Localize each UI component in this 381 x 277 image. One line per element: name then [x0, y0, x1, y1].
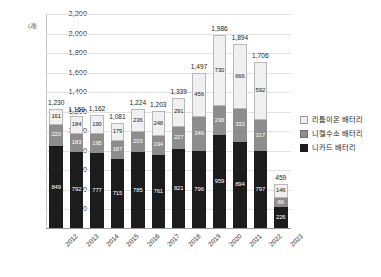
chart-legend: 리튬이온 배터리 니켈수소 배터리 니카드 배터리 [300, 113, 378, 155]
bar-segment-lithium[interactable]: 161 [49, 109, 63, 125]
bar-segment-value-label: 333 [235, 122, 245, 128]
bar-segment-lithium[interactable]: 190 [90, 115, 104, 134]
bar-segment-value-label: 190 [92, 122, 102, 128]
bar-segment-nimh[interactable]: 194 [152, 136, 166, 155]
bar-stack: 291227821 [172, 98, 186, 229]
bar-stack: 14688226 [274, 184, 288, 229]
bar-segment-lithium[interactable]: 592 [254, 62, 268, 120]
bar-stack: 161220849 [49, 109, 63, 229]
bar-total-label: 459 [275, 175, 286, 182]
bar-total-label: 1,230 [48, 100, 65, 107]
plot-area: 1612208491,2301841837921,1591901957771,1… [46, 14, 291, 229]
y-axis-unit-label: (개) [28, 24, 37, 30]
bar-segment-value-label: 592 [256, 88, 266, 94]
bar-segment-nicd[interactable]: 777 [90, 153, 104, 229]
bar-segment-lithium[interactable]: 184 [70, 116, 84, 134]
bar-stack: 184183792 [70, 116, 84, 229]
bar-segment-lithium[interactable]: 248 [152, 111, 166, 135]
x-axis-tick: 2012 [65, 233, 80, 248]
bar-segment-value-label: 88 [278, 200, 284, 206]
bar-stack: 190195777 [90, 115, 104, 229]
bar-segment-value-label: 226 [276, 215, 286, 221]
bar-segment-nicd[interactable]: 821 [172, 149, 186, 229]
bar-segment-value-label: 715 [113, 191, 123, 197]
bar-segment-value-label: 179 [113, 129, 123, 135]
bar-segment-value-label: 785 [133, 188, 143, 194]
bar-segment-nimh[interactable]: 88 [274, 198, 288, 207]
bar-segment-value-label: 849 [51, 185, 61, 191]
bar-segment-value-label: 761 [154, 189, 164, 195]
bar-segment-lithium[interactable]: 730 [213, 35, 227, 106]
bar-total-label: 1,986 [211, 26, 228, 33]
stacked-bar-chart: (개) 2004006008001,0001,2001,4001,6001,80… [0, 0, 381, 277]
bar-segment-nimh[interactable]: 195 [90, 134, 104, 153]
bar-segment-lithium[interactable]: 291 [172, 98, 186, 126]
bar-segment-value-label: 959 [215, 179, 225, 185]
x-axis-tick: 2022 [269, 233, 284, 248]
legend-label-lithium: 리튬이온 배터리 [312, 116, 363, 123]
bar-segment-value-label: 161 [51, 114, 61, 120]
bar-segment-value-label: 203 [133, 139, 143, 145]
x-axis-tick: 2013 [85, 233, 100, 248]
bar-segment-nicd[interactable]: 849 [49, 146, 63, 229]
bar-segment-value-label: 792 [72, 187, 82, 193]
bar-segment-nicd[interactable]: 715 [111, 159, 125, 229]
bar-segment-nimh[interactable]: 296 [213, 106, 227, 135]
bar-total-label: 1,159 [68, 107, 85, 114]
bar-total-label: 1,497 [191, 64, 208, 71]
bar-segment-value-label: 194 [154, 142, 164, 148]
bar-segment-nimh[interactable]: 333 [233, 109, 247, 142]
bar-total-label: 1,203 [150, 102, 167, 109]
bar-segment-nimh[interactable]: 346 [192, 117, 206, 151]
bar-segment-nicd[interactable]: 796 [192, 151, 206, 229]
gridline [46, 34, 291, 35]
bar-segment-nimh[interactable]: 203 [131, 132, 145, 152]
bar-segment-lithium[interactable]: 236 [131, 109, 145, 132]
bar-total-label: 1,081 [109, 114, 126, 121]
legend-swatch-nicd-icon [300, 144, 308, 152]
bar-segment-lithium[interactable]: 146 [274, 184, 288, 198]
x-axis-tick: 2021 [248, 233, 263, 248]
bar-total-label: 1,224 [130, 100, 147, 107]
bar-segment-value-label: 220 [51, 132, 61, 138]
legend-item-lithium: 리튬이온 배터리 [300, 113, 378, 127]
bar-stack: 179187715 [111, 123, 125, 229]
bar-segment-value-label: 187 [113, 147, 123, 153]
bar-segment-value-label: 146 [276, 188, 286, 194]
bar-segment-value-label: 666 [235, 74, 245, 80]
bar-total-label: 1,706 [252, 53, 269, 60]
bar-segment-nicd[interactable]: 761 [152, 155, 166, 229]
legend-label-nimh: 니켈수소 배터리 [312, 130, 363, 137]
bar-stack: 248194761 [152, 111, 166, 229]
bar-total-label: 1,894 [232, 35, 249, 42]
bar-segment-nimh[interactable]: 183 [70, 134, 84, 152]
bar-segment-nicd[interactable]: 785 [131, 152, 145, 229]
bar-segment-nimh[interactable]: 220 [49, 125, 63, 147]
bar-segment-nicd[interactable]: 959 [213, 135, 227, 229]
bar-segment-nicd[interactable]: 797 [254, 151, 268, 229]
x-axis-tick: 2020 [228, 233, 243, 248]
gridline [46, 14, 291, 15]
bar-segment-value-label: 296 [215, 118, 225, 124]
bar-segment-nicd[interactable]: 894 [233, 142, 247, 229]
bar-segment-value-label: 183 [72, 140, 82, 146]
bar-segment-nimh[interactable]: 187 [111, 141, 125, 159]
bar-segment-lithium[interactable]: 456 [192, 73, 206, 118]
bar-segment-nimh[interactable]: 227 [172, 127, 186, 149]
bar-stack: 666333894 [233, 44, 247, 229]
x-axis-tick: 2023 [289, 233, 304, 248]
bar-segment-lithium[interactable]: 666 [233, 44, 247, 109]
bar-stack: 730296959 [213, 35, 227, 229]
bar-stack: 456346796 [192, 73, 206, 229]
x-axis-tick: 2017 [167, 233, 182, 248]
x-axis-tick: 2015 [126, 233, 141, 248]
bar-segment-value-label: 248 [154, 121, 164, 127]
bar-segment-value-label: 456 [194, 92, 204, 98]
bar-segment-nicd[interactable]: 226 [274, 207, 288, 229]
bar-segment-nimh[interactable]: 317 [254, 120, 268, 151]
bar-segment-nicd[interactable]: 792 [70, 152, 84, 229]
bar-segment-lithium[interactable]: 179 [111, 123, 125, 140]
legend-label-nicd: 니카드 배터리 [312, 144, 356, 151]
legend-item-nimh: 니켈수소 배터리 [300, 127, 378, 141]
bar-segment-value-label: 227 [174, 135, 184, 141]
